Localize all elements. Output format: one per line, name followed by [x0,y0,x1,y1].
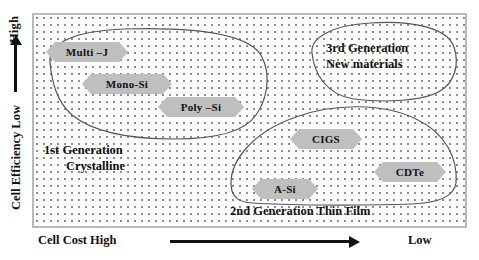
caption-gen3-line2: New materials [326,57,408,73]
caption-gen1-line1: 1st Generation [44,143,123,157]
chip-a-si[interactable]: A-Si [252,179,318,199]
chip-mono-si-label: Mono-Si [106,78,148,90]
plot-area: Multi –J Mono-Si Poly –Si CIGS A-Si CDTe… [32,13,467,228]
chip-poly-si-label: Poly –Si [181,101,222,113]
chip-multi-j-label: Multi –J [66,46,108,58]
y-axis-title: Cell Efficiency Low [9,88,24,228]
diagram-root: High Cell Efficiency Low Multi –J Mono-S… [0,0,479,260]
caption-gen3-line1: 3rd Generation [326,41,408,55]
chip-cdte[interactable]: CDTe [374,162,446,182]
chip-a-si-label: A-Si [274,183,296,195]
caption-gen3: 3rd Generation New materials [326,41,408,72]
chip-cigs-label: CIGS [312,133,340,145]
x-axis: Cell Cost High Low [0,230,479,260]
chip-poly-si[interactable]: Poly –Si [158,97,244,117]
y-axis: High Cell Efficiency Low [0,0,32,232]
chip-mono-si[interactable]: Mono-Si [82,74,172,94]
y-axis-arrow-icon [14,44,17,92]
x-axis-right-label: Low [408,233,432,248]
x-axis-left-label: Cell Cost High [38,233,116,248]
chip-cdte-label: CDTe [396,166,424,178]
x-axis-arrow-icon [170,240,350,243]
chip-multi-j[interactable]: Multi –J [46,42,128,62]
caption-gen2: 2nd Generation Thin Film [230,204,370,220]
caption-gen1: 1st Generation Crystalline [44,143,125,174]
caption-gen1-line2: Crystalline [44,159,125,175]
chip-cigs[interactable]: CIGS [290,129,362,149]
